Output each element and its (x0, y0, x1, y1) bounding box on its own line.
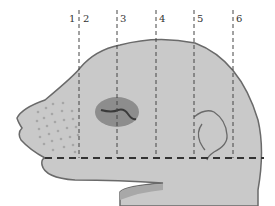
diagram-canvas (0, 0, 275, 206)
head-section-diagram: 1 2 3 4 5 6 (0, 0, 275, 206)
section-label-5: 5 (197, 14, 203, 24)
section-label-2: 2 (83, 14, 89, 24)
section-label-3: 3 (120, 14, 126, 24)
section-label-6: 6 (236, 14, 242, 24)
head-silhouette (17, 39, 262, 206)
section-label-1: 1 (69, 14, 75, 24)
section-label-4: 4 (159, 14, 165, 24)
